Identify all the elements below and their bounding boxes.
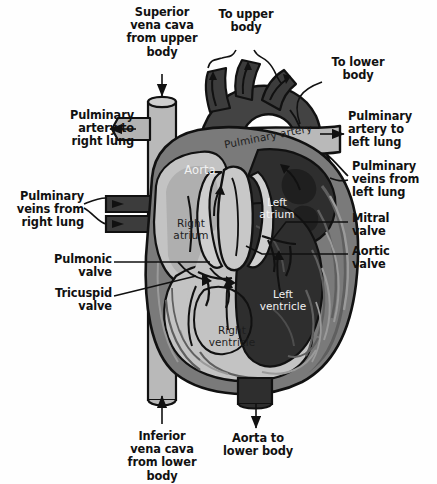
label-left-ventricle-internal: Left ventricle: [252, 288, 314, 312]
label-to-lower-body: To lower body: [310, 56, 406, 82]
right-pulmonary-veins-stubs: [106, 196, 152, 232]
leader-pv-right-a: [84, 198, 106, 204]
label-to-upper-body: To upper body: [194, 8, 298, 34]
label-pulminary-artery-right-lung: Pulminary artery to right lung: [4, 109, 134, 149]
label-pulminary-artery-left-lung: Pulminary artery to left lung: [348, 110, 437, 150]
label-aortic-valve: Aortic valve: [352, 245, 432, 271]
label-mitral-valve: Mitral valve: [352, 212, 432, 238]
label-pulminary-veins-left-lung: Pulminary veins from left lung: [352, 160, 437, 200]
label-right-atrium-internal: Right atrium: [162, 217, 220, 241]
label-aorta-internal: Aorta: [171, 164, 229, 176]
label-pulminary-veins-right-lung: Pulminary veins from right lung: [0, 190, 84, 230]
heart-anatomy-diagram: Superior vena cava from upper body To up…: [0, 0, 437, 484]
label-right-ventricle-internal: Right ventricle: [201, 324, 263, 348]
label-pulmonic-valve: Pulmonic valve: [24, 253, 112, 279]
label-aorta-to-lower-body: Aorta to lower body: [200, 432, 316, 458]
label-left-atrium-internal: Left atrium: [248, 196, 306, 220]
descending-aorta-stub: [238, 378, 272, 409]
leader-pv-right-b: [84, 208, 106, 224]
label-tricuspid-valve: Tricuspid valve: [16, 287, 112, 313]
